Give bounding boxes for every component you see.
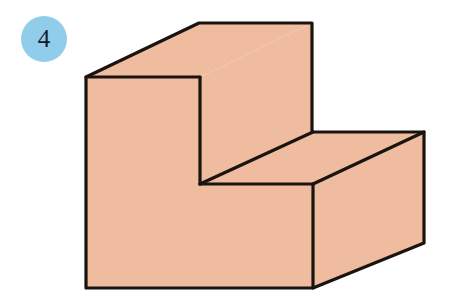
stepped-solid-figure [0, 0, 459, 305]
figure-number-label: 4 [38, 26, 51, 53]
figure-number-badge: 4 [21, 16, 67, 62]
figure-canvas: 4 [0, 0, 459, 305]
